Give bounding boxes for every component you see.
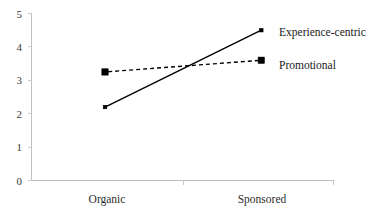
data-point-experience-centric-organic	[103, 105, 107, 109]
x-axis-label-sponsored: Sponsored	[238, 193, 287, 206]
x-axis-label-organic: Organic	[89, 193, 126, 206]
y-tick-label-3: 3	[17, 74, 23, 86]
y-tick-label-4: 4	[17, 41, 23, 53]
legend-label-experience-centric: Experience-centric	[279, 26, 366, 39]
y-tick-label-0: 0	[17, 175, 23, 187]
data-point-promotional-sponsored	[258, 57, 264, 63]
series-line-promotional	[108, 60, 258, 71]
data-point-promotional-organic	[102, 69, 108, 75]
series-line-experience-centric	[105, 30, 261, 107]
chart-figure: 5 4 3 2 1 0 Organic Sponsored Experience…	[0, 0, 376, 217]
data-point-experience-centric-sponsored	[260, 28, 264, 32]
y-tick-label-2: 2	[17, 108, 23, 120]
legend-label-promotional: Promotional	[279, 59, 336, 71]
y-tick-label-1: 1	[17, 141, 23, 153]
line-chart-canvas: 5 4 3 2 1 0 Organic Sponsored Experience…	[0, 0, 376, 217]
y-tick-label-5: 5	[17, 8, 23, 20]
